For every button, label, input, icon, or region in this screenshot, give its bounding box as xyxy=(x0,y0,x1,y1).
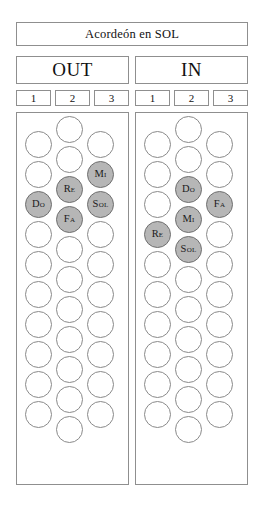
column-number-in-2[interactable]: 2 xyxy=(174,90,209,106)
empty-button-in-2-11[interactable] xyxy=(175,416,202,443)
page-title: Acordeón en SOL xyxy=(85,27,179,42)
note-button-out-1-3[interactable]: Do xyxy=(25,191,52,218)
empty-button-out-3-7[interactable] xyxy=(87,311,114,338)
empty-button-out-1-5[interactable] xyxy=(25,251,52,278)
button-panel-out: DoReFaMiSol xyxy=(16,112,129,485)
note-label: Mi xyxy=(94,169,106,180)
empty-button-in-2-7[interactable] xyxy=(175,296,202,323)
note-label: Fa xyxy=(214,199,225,210)
empty-button-out-2-7[interactable] xyxy=(56,296,83,323)
note-label: Sol xyxy=(181,244,197,255)
empty-button-out-3-8[interactable] xyxy=(87,341,114,368)
empty-button-in-3-1[interactable] xyxy=(206,131,233,158)
empty-button-in-3-4[interactable] xyxy=(206,221,233,248)
empty-button-in-2-6[interactable] xyxy=(175,266,202,293)
empty-button-out-3-9[interactable] xyxy=(87,371,114,398)
empty-button-out-1-10[interactable] xyxy=(25,401,52,428)
empty-button-out-2-9[interactable] xyxy=(56,356,83,383)
empty-button-in-1-2[interactable] xyxy=(144,161,171,188)
empty-button-in-1-10[interactable] xyxy=(144,401,171,428)
empty-button-in-1-1[interactable] xyxy=(144,131,171,158)
column-number-label: 3 xyxy=(109,92,115,104)
note-button-out-3-2[interactable]: Mi xyxy=(87,161,114,188)
note-label: Do xyxy=(32,199,45,210)
note-button-in-1-4[interactable]: Re xyxy=(144,221,171,248)
empty-button-out-1-1[interactable] xyxy=(25,131,52,158)
empty-button-out-3-4[interactable] xyxy=(87,221,114,248)
empty-button-out-3-10[interactable] xyxy=(87,401,114,428)
empty-button-out-2-1[interactable] xyxy=(56,116,83,143)
empty-button-out-1-2[interactable] xyxy=(25,161,52,188)
column-number-out-2[interactable]: 2 xyxy=(55,90,90,106)
empty-button-in-3-6[interactable] xyxy=(206,281,233,308)
empty-button-out-3-5[interactable] xyxy=(87,251,114,278)
empty-button-in-3-9[interactable] xyxy=(206,371,233,398)
column-number-out-3[interactable]: 3 xyxy=(94,90,129,106)
column-number-label: 1 xyxy=(31,92,37,104)
column-number-label: 1 xyxy=(150,92,156,104)
empty-button-in-1-7[interactable] xyxy=(144,311,171,338)
note-label: Re xyxy=(64,184,76,195)
empty-button-out-1-7[interactable] xyxy=(25,311,52,338)
note-button-in-2-5[interactable]: Sol xyxy=(175,236,202,263)
note-button-in-2-3[interactable]: Do xyxy=(175,176,202,203)
panel-header-in-label: IN xyxy=(181,59,202,81)
note-label: Mi xyxy=(182,214,194,225)
note-label: Do xyxy=(182,184,195,195)
button-panel-in: ReDoMiSolFa xyxy=(135,112,248,485)
empty-button-out-2-6[interactable] xyxy=(56,266,83,293)
empty-button-out-1-4[interactable] xyxy=(25,221,52,248)
empty-button-in-2-10[interactable] xyxy=(175,386,202,413)
empty-button-in-2-9[interactable] xyxy=(175,356,202,383)
panel-header-out: OUT xyxy=(16,56,129,84)
note-button-out-3-3[interactable]: Sol xyxy=(87,191,114,218)
empty-button-in-2-2[interactable] xyxy=(175,146,202,173)
title-prefix: Acordeón en xyxy=(85,27,155,41)
empty-button-in-3-7[interactable] xyxy=(206,311,233,338)
empty-button-out-1-8[interactable] xyxy=(25,341,52,368)
note-label: Re xyxy=(152,229,164,240)
column-number-in-1[interactable]: 1 xyxy=(135,90,170,106)
empty-button-in-3-2[interactable] xyxy=(206,161,233,188)
column-number-label: 3 xyxy=(228,92,234,104)
note-label: Fa xyxy=(64,214,75,225)
empty-button-in-3-5[interactable] xyxy=(206,251,233,278)
empty-button-out-3-6[interactable] xyxy=(87,281,114,308)
empty-button-in-3-10[interactable] xyxy=(206,401,233,428)
column-number-in-3[interactable]: 3 xyxy=(213,90,248,106)
column-number-label: 2 xyxy=(70,92,76,104)
note-button-out-2-3[interactable]: Re xyxy=(56,176,83,203)
empty-button-out-2-5[interactable] xyxy=(56,236,83,263)
empty-button-in-1-6[interactable] xyxy=(144,281,171,308)
empty-button-in-2-8[interactable] xyxy=(175,326,202,353)
note-button-in-2-4[interactable]: Mi xyxy=(175,206,202,233)
empty-button-out-2-10[interactable] xyxy=(56,386,83,413)
title-key: SOL xyxy=(155,27,179,41)
empty-button-in-3-8[interactable] xyxy=(206,341,233,368)
note-label: Sol xyxy=(93,199,109,210)
empty-button-in-1-5[interactable] xyxy=(144,251,171,278)
empty-button-in-2-1[interactable] xyxy=(175,116,202,143)
empty-button-out-2-11[interactable] xyxy=(56,416,83,443)
empty-button-in-1-9[interactable] xyxy=(144,371,171,398)
empty-button-out-2-2[interactable] xyxy=(56,146,83,173)
chart-title-box: Acordeón en SOL xyxy=(16,22,248,46)
empty-button-out-2-8[interactable] xyxy=(56,326,83,353)
empty-button-in-1-3[interactable] xyxy=(144,191,171,218)
note-button-in-3-3[interactable]: Fa xyxy=(206,191,233,218)
empty-button-out-1-6[interactable] xyxy=(25,281,52,308)
column-number-label: 2 xyxy=(189,92,195,104)
accordion-chart-root: Acordeón en SOL OUT IN 1 2 3 1 2 3 DoReF… xyxy=(0,0,264,517)
panel-header-in: IN xyxy=(135,56,248,84)
empty-button-out-3-1[interactable] xyxy=(87,131,114,158)
empty-button-in-1-8[interactable] xyxy=(144,341,171,368)
panel-header-out-label: OUT xyxy=(52,59,93,81)
note-button-out-2-4[interactable]: Fa xyxy=(56,206,83,233)
empty-button-out-1-9[interactable] xyxy=(25,371,52,398)
column-number-out-1[interactable]: 1 xyxy=(16,90,51,106)
